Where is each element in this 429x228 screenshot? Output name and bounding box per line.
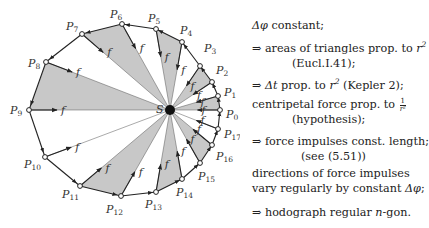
force-label: f: [180, 145, 187, 158]
delta-phi-symbol: Δφ: [252, 19, 268, 32]
point-label-P9: P9: [9, 104, 22, 118]
force-label: f: [138, 166, 145, 179]
note-text: prop. to: [278, 79, 330, 92]
center-label: S: [156, 103, 164, 116]
point-label-P11: P11: [61, 188, 79, 202]
n-symbol: n: [375, 206, 382, 219]
note-line-9: directions of force impulses: [252, 166, 410, 181]
note-line-2: ⇒ areas of triangles prop. to r2: [252, 41, 426, 56]
point-label-P16: P16: [215, 150, 233, 164]
note-line-11: ⇒ hodograph regular n-gon.: [252, 205, 411, 220]
orbit-point: [78, 184, 83, 189]
orbit-point: [43, 155, 48, 160]
orbit-point: [210, 143, 215, 148]
note-text: -gon.: [383, 206, 411, 219]
note-line-1: Δφ constant;: [252, 18, 324, 33]
note-text: ⇒: [252, 79, 265, 92]
orbit-point: [119, 194, 124, 199]
orbit-point: [216, 127, 221, 132]
orbit-point: [198, 161, 203, 166]
force-label: f: [180, 64, 187, 77]
shaded-triangle: [80, 110, 170, 196]
note-text: ⇒ hodograph regular: [252, 206, 375, 219]
point-label-P3: P3: [203, 42, 216, 56]
orbit-point: [218, 108, 223, 113]
orbit-point: [44, 60, 49, 65]
note-line-8: (see (5.51)): [301, 149, 366, 164]
note-line-4: ⇒ Δt prop. to r2 (Kepler 2);: [252, 78, 404, 93]
note-text: vary regularly by constant: [252, 182, 405, 195]
orbit-edge: [45, 157, 80, 186]
point-label-P5: P5: [147, 12, 160, 26]
note-line-6: (hypothesis);: [292, 112, 365, 127]
force-label: f: [74, 141, 81, 154]
point-label-P10: P10: [23, 158, 41, 172]
point-label-P1: P1: [223, 86, 236, 100]
point-label-P14: P14: [175, 186, 193, 200]
center-S-dot: [165, 105, 175, 115]
point-label-P2: P2: [215, 64, 228, 78]
orbit-point: [198, 64, 203, 69]
orbit-edge: [121, 192, 156, 196]
point-label-P8: P8: [27, 57, 40, 71]
orbit-point: [154, 27, 159, 32]
point-label-P12: P12: [105, 203, 123, 217]
note-text: constant;: [268, 19, 324, 32]
point-label-P4: P4: [179, 24, 192, 38]
note-text: centripetal force prop. to: [252, 98, 399, 111]
note-text: (Kepler 2);: [340, 79, 404, 92]
orbit-point: [216, 94, 221, 99]
point-label-P0: P0: [225, 108, 238, 122]
note-text: ;: [421, 182, 425, 195]
orbit-point: [120, 22, 125, 27]
point-label-P15: P15: [197, 170, 215, 184]
point-label-P7: P7: [65, 20, 78, 34]
orbit-point: [180, 177, 185, 182]
denominator: r²: [400, 106, 406, 113]
fraction: 1r²: [400, 98, 406, 113]
point-label-P13: P13: [144, 198, 162, 212]
orbit-point: [27, 108, 32, 113]
note-line-10: vary regularly by constant Δφ;: [252, 181, 425, 196]
orbit-point: [180, 40, 185, 45]
note-line-3: (Eucl.I.41);: [292, 56, 355, 71]
orbit-point: [210, 80, 215, 85]
delta-phi-symbol: Δφ: [405, 182, 421, 195]
orbit-edge: [182, 42, 200, 66]
point-label-P6: P6: [109, 8, 122, 22]
force-label: f: [139, 42, 146, 55]
force-impulse-arrow: [45, 147, 71, 157]
orbit-point: [80, 32, 85, 37]
note-line-7: ⇒ force impulses const. length;: [252, 134, 429, 149]
orbit-polygon-diagram: ffffffffffffffffff P0P1P2P3P4P5P6P7P8P9P…: [0, 0, 240, 228]
orbit-point: [154, 190, 159, 195]
note-line-5: centripetal force prop. to 1r²: [252, 97, 406, 113]
note-text: ⇒ areas of triangles prop. to: [252, 42, 416, 55]
point-label-P17: P17: [223, 128, 240, 142]
exponent: 2: [422, 40, 427, 49]
delta-t-symbol: Δt: [265, 79, 278, 92]
